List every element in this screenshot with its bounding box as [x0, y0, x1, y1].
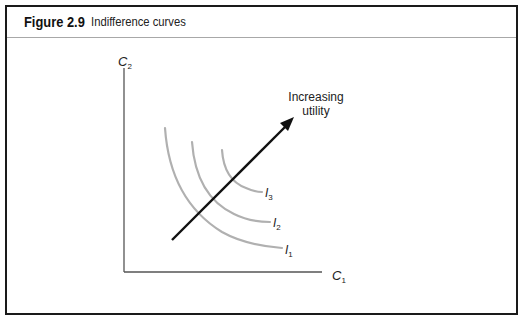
indifference-diagram: C2 C1 I1 I2 I3 Increasing utility	[0, 0, 522, 324]
curve-label-i1: I1	[285, 243, 293, 259]
arrow-label-line1: Increasing	[288, 90, 343, 104]
curve-label-i3: I3	[265, 186, 273, 202]
y-axis-label: C2	[118, 54, 132, 71]
curve-label-i2: I2	[273, 216, 281, 232]
arrow-label-line2: utility	[302, 104, 329, 118]
x-axis-label: C1	[332, 268, 346, 285]
